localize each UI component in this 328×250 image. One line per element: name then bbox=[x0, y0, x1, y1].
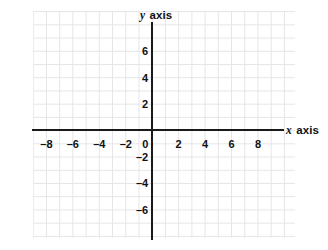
x-axis-label-suffix: axis bbox=[293, 124, 319, 136]
x-tick-label: 6 bbox=[228, 139, 234, 150]
x-tick-label: 4 bbox=[202, 139, 208, 150]
x-tick-label: 0 bbox=[142, 139, 148, 150]
y-tick-label: –6 bbox=[136, 204, 148, 215]
x-tick-label: –6 bbox=[67, 139, 79, 150]
grid-lines bbox=[33, 11, 295, 238]
y-axis-label-suffix: axis bbox=[146, 9, 172, 21]
x-axis-line bbox=[32, 129, 284, 131]
x-axis-label: x axis bbox=[286, 124, 319, 136]
y-tick-label: –2 bbox=[136, 152, 148, 163]
x-axis-variable-glyph: x bbox=[286, 124, 293, 136]
x-tick-label: –8 bbox=[40, 139, 52, 150]
y-axis-label: y axis bbox=[140, 9, 172, 21]
y-tick-label: 2 bbox=[142, 99, 148, 110]
y-tick-label: 4 bbox=[142, 72, 148, 83]
x-tick-label: 8 bbox=[255, 139, 261, 150]
y-tick-label: –4 bbox=[136, 178, 148, 189]
x-tick-label: –2 bbox=[120, 139, 132, 150]
coordinate-plane-figure: y axis x axis –8–6–4–202468 642–2–4–6 bbox=[0, 0, 328, 250]
grid-area bbox=[33, 11, 295, 238]
y-tick-label: 6 bbox=[142, 46, 148, 57]
y-axis-line bbox=[151, 22, 153, 240]
x-tick-label: 2 bbox=[176, 139, 182, 150]
x-tick-label: –4 bbox=[93, 139, 105, 150]
